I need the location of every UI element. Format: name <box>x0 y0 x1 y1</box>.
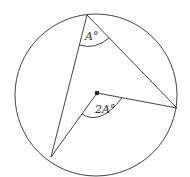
inscribed-angle-label: A° <box>84 30 98 43</box>
central-angle-label: 2A° <box>94 103 115 116</box>
circle-angle-diagram: A° 2A° <box>0 0 190 177</box>
chord-top-to-bottom-left <box>51 15 87 157</box>
radius-to-bottom-left <box>51 93 97 157</box>
center-point <box>95 91 100 96</box>
